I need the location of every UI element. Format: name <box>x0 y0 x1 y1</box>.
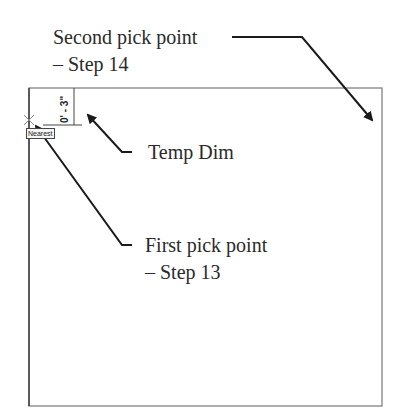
temp-dim-leader <box>88 115 132 152</box>
first-pick-label-line2: – Step 13 <box>145 260 221 284</box>
first-pick-label-line1: First pick point <box>145 233 267 257</box>
temp-dim-label: Temp Dim <box>148 140 234 164</box>
temp-dim-value[interactable]: 0' - 3" <box>59 96 70 123</box>
second-pick-leader <box>232 37 372 120</box>
second-pick-label-line1: Second pick point <box>53 25 197 49</box>
second-pick-label-line2: – Step 14 <box>53 52 129 76</box>
snap-tooltip: Nearest <box>26 128 55 139</box>
first-pick-leader <box>36 126 132 245</box>
